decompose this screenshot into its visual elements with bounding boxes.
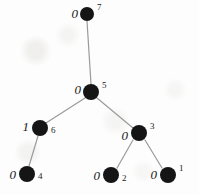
- node-value-5: 0: [75, 83, 82, 96]
- tree-edge-6-4: [29, 136, 38, 166]
- node-value-4: 0: [10, 168, 17, 181]
- tree-node-6[interactable]: [32, 120, 48, 136]
- node-index-1: 1: [179, 164, 184, 173]
- tree-edge-5-6: [46, 98, 85, 123]
- node-index-4: 4: [38, 172, 43, 181]
- node-value-6: 1: [23, 120, 30, 133]
- tree-edge-7-5: [87, 21, 91, 84]
- node-value-3: 0: [122, 129, 129, 142]
- node-index-3: 3: [150, 122, 155, 131]
- tree-node-7[interactable]: [80, 7, 94, 21]
- node-value-1: 0: [151, 168, 158, 181]
- node-index-5: 5: [102, 81, 107, 90]
- node-index-6: 6: [51, 126, 56, 135]
- tree-node-5[interactable]: [83, 84, 99, 100]
- tree-edge-3-2: [117, 140, 133, 168]
- tree-edge-3-1: [145, 140, 162, 168]
- tree-node-1[interactable]: [160, 167, 176, 183]
- binary-tree-figure: 07051603040201: [0, 0, 199, 195]
- tree-edge-5-3: [97, 98, 133, 128]
- node-index-7: 7: [97, 3, 102, 12]
- tree-node-2[interactable]: [103, 167, 119, 183]
- node-value-7: 0: [72, 7, 79, 20]
- node-value-2: 0: [94, 169, 101, 182]
- tree-node-3[interactable]: [131, 125, 147, 141]
- node-index-2: 2: [122, 174, 127, 183]
- tree-node-4[interactable]: [19, 166, 35, 182]
